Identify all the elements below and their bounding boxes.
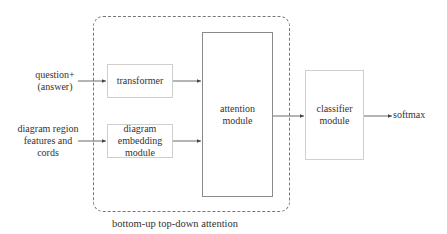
classifier-module-label: classifier module — [316, 103, 352, 127]
diagram-embedding-line2: embedding — [118, 135, 162, 147]
input-question-line1: question+ — [30, 69, 80, 81]
diagram-embedding-module-box: diagram embedding module — [107, 124, 173, 158]
group-caption: bottom-up top-down attention — [110, 218, 240, 230]
input-question-label: question+ (answer) — [30, 69, 80, 93]
input-question-line2: (answer) — [30, 81, 80, 93]
transformer-label: transformer — [117, 75, 164, 87]
diagram-embedding-line1: diagram — [118, 123, 162, 135]
attention-module-label: attention module — [220, 103, 255, 127]
input-diagram-line3: cords — [14, 147, 82, 159]
classifier-line1: classifier — [316, 103, 352, 115]
classifier-module-box: classifier module — [305, 70, 364, 160]
attention-line2: module — [220, 115, 255, 127]
diagram-embedding-line3: module — [118, 147, 162, 159]
attention-line1: attention — [220, 103, 255, 115]
attention-module-box: attention module — [202, 32, 273, 197]
classifier-line2: module — [316, 115, 352, 127]
diagram-embedding-label: diagram embedding module — [118, 123, 162, 159]
input-diagram-line2: features and — [14, 135, 82, 147]
softmax-output-label: softmax — [393, 109, 425, 121]
transformer-box: transformer — [107, 64, 173, 98]
input-diagram-line1: diagram region — [14, 123, 82, 135]
input-diagram-label: diagram region features and cords — [14, 123, 82, 159]
